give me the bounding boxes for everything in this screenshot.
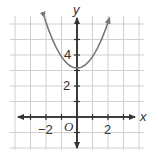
axes	[18, 18, 135, 148]
x-tick-label-2: 2	[104, 122, 111, 137]
y-axis-label: y	[72, 2, 81, 17]
parabola-graph: y x O −2 2 2 4	[0, 0, 158, 162]
origin-label: O	[64, 119, 74, 134]
y-tick-label-4: 4	[64, 47, 71, 62]
y-tick-label-2: 2	[63, 78, 70, 93]
x-tick-label-neg2: −2	[38, 122, 53, 137]
x-axis-label: x	[139, 109, 147, 124]
